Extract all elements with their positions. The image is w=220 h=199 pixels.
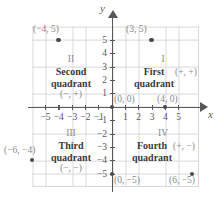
x-tick-label: 1 [118,112,132,122]
data-point-label: (0, 0) [114,94,135,104]
x-tick-mark [45,105,46,110]
x-axis-label: x [208,108,213,120]
coordinate-plane-figure: x y −5 −4 −3 −2 −1 1 2 3 4 5 5 4 3 2 1 −… [0,0,220,199]
quadrant-2-roman: II [51,54,91,64]
data-point-label: (3, 5) [126,24,147,34]
y-tick-label: 4 [93,48,107,58]
y-tick-mark [110,134,115,135]
x-tick-mark [138,105,139,110]
quadrant-3-signs: (−, −) [51,163,91,173]
x-tick-label: −3 [65,112,79,122]
x-tick-label: −5 [39,112,53,122]
quadrant-3-roman: III [51,128,91,138]
y-tick-label: −2 [93,129,107,139]
quadrant-3-name-line2: quadrant [43,152,99,164]
data-point-label: (−4, 5) [33,24,59,34]
quadrant-2-name-line1: Second [43,66,99,78]
y-tick-label: −5 [93,169,107,179]
x-tick-mark [152,105,153,110]
y-tick-mark [110,53,115,54]
y-tick-mark [110,120,115,121]
x-tick-mark [85,105,86,110]
x-tick-label: −4 [52,112,66,122]
y-tick-mark [110,147,115,148]
quadrant-4-name-line2: quadrant [124,152,180,164]
quadrant-4-signs: (+, −) [164,141,204,151]
y-axis-arrow-icon [108,10,118,18]
x-tick-mark [98,105,99,110]
x-tick-label: −2 [78,112,92,122]
y-tick-label: 5 [93,35,107,45]
y-axis-label: y [100,2,105,14]
x-tick-mark [178,105,179,110]
x-tick-mark [58,105,59,110]
x-tick-label: 3 [145,112,159,122]
quadrant-4-roman: IV [143,128,183,138]
quadrant-1-roman: I [143,54,183,64]
x-tick-label: 4 [158,112,172,122]
data-point-label: (0, −5) [114,175,140,185]
x-tick-mark [72,105,73,110]
data-point-label: (4, 0) [157,94,178,104]
x-tick-mark [125,105,126,110]
y-tick-label: −1 [93,115,107,125]
x-tick-label: 5 [172,112,186,122]
y-tick-mark [110,40,115,41]
y-tick-mark [110,80,115,81]
data-point [56,38,60,42]
quadrant-1-signs: (+, +) [166,67,206,77]
data-point [149,38,153,42]
quadrant-2-signs: (−, +) [51,89,91,99]
data-point-label: (−6, −4) [4,145,35,155]
quadrant-2-name-line2: quadrant [43,78,99,90]
y-tick-mark [110,160,115,161]
quadrant-1-name-line2: quadrant [126,78,182,90]
x-axis-arrow-icon [200,102,208,112]
quadrant-3-name-line1: Third [43,140,99,152]
x-tick-label: 2 [132,112,146,122]
y-tick-mark [110,67,115,68]
data-point-label: (6, −5) [169,175,195,185]
y-tick-label: 1 [93,88,107,98]
